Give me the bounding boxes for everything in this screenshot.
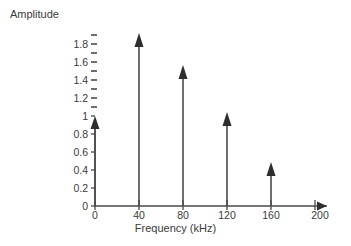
x-tick-label: 120	[218, 209, 236, 221]
x-tick-label: 160	[262, 209, 280, 221]
spectrum-chart: Amplitude 0 0.2 0.4 0.6 0.8 1 1.2 1.4 1.…	[0, 0, 351, 246]
stem-arrow-160khz	[267, 162, 276, 206]
stem-arrow-40khz	[135, 33, 144, 206]
x-tick-label: 0	[92, 209, 98, 221]
x-tick-label: 80	[177, 209, 189, 221]
plot-area	[0, 0, 351, 246]
stem-arrow-120khz	[223, 112, 232, 206]
stem-arrow-80khz	[179, 65, 188, 206]
x-tick-label: 40	[133, 209, 145, 221]
x-axis-title: Frequency (kHz)	[0, 222, 351, 234]
x-tick-label: 200	[311, 209, 329, 221]
stem-arrow-0khz	[91, 116, 100, 206]
